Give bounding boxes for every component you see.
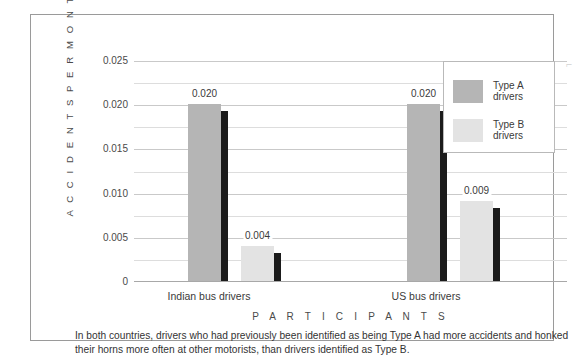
- bar-series1-group0[interactable]: 0.004: [241, 246, 274, 281]
- figure-frame: A C C I D E N T S P E R M O N T H 0.0250…: [30, 14, 554, 341]
- bar-body: [407, 104, 440, 281]
- bar-shadow: [221, 111, 228, 281]
- y-tick-label-5: 0: [76, 277, 128, 287]
- bar-series0-group0[interactable]: 0.020: [188, 104, 221, 281]
- bar-body: [460, 201, 493, 281]
- bar-value-label: 0.004: [243, 230, 272, 242]
- y-tick-label-2: 0.015: [76, 144, 128, 154]
- bar-body: [188, 104, 221, 281]
- bar-shadow: [493, 208, 500, 281]
- bar-value-label: 0.020: [190, 88, 219, 100]
- x-axis-title: P A R T I C I P A N T S: [134, 311, 567, 322]
- x-axis-line: [134, 281, 567, 282]
- y-tick-label-3: 0.010: [76, 189, 128, 199]
- legend-item-0[interactable]: Type A drivers: [453, 74, 551, 108]
- legend-label-1: Type B drivers: [493, 119, 524, 142]
- y-tick-label-4: 0.005: [76, 233, 128, 243]
- y-axis-title: A C C I D E N T S P E R M O N T H: [64, 21, 75, 217]
- legend-label-0: Type A drivers: [493, 80, 524, 103]
- scan-artifact: ⌐: [566, 58, 572, 70]
- bar-series1-group1[interactable]: 0.009: [460, 201, 493, 281]
- bar-series0-group1[interactable]: 0.020: [407, 104, 440, 281]
- y-tick-label-1: 0.020: [76, 100, 128, 110]
- bar-body: [241, 246, 274, 281]
- bar-shadow: [274, 253, 281, 281]
- legend-item-1[interactable]: Type B drivers: [453, 113, 551, 147]
- x-axis-category-label-0: Indian bus drivers: [134, 290, 284, 302]
- bar-value-label: 0.020: [409, 88, 438, 100]
- legend-swatch-1: [453, 119, 483, 142]
- chart-legend: Type A driversType B drivers: [443, 61, 555, 153]
- legend-swatch-0: [453, 80, 483, 103]
- y-axis-tick-labels: 0.0250.0200.0150.0100.0050: [74, 61, 128, 282]
- figure-caption: In both countries, drivers who had previ…: [75, 329, 575, 357]
- x-axis-category-label-1: US bus drivers: [351, 290, 501, 302]
- y-tick-label-0: 0.025: [76, 56, 128, 66]
- bar-value-label: 0.009: [462, 185, 491, 197]
